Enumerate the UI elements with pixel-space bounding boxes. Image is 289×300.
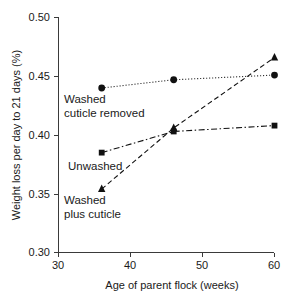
data-point <box>272 123 278 129</box>
annotation-washed-cuticle-removed-line2: cuticle removed <box>64 107 145 119</box>
data-point <box>271 72 278 79</box>
y-tick-label-040: 0.40 <box>29 129 50 141</box>
y-tick-label-035: 0.35 <box>29 188 50 200</box>
y-axis-title: Weight loss per day to 21 days (%) <box>10 50 22 220</box>
series-line-unwashed <box>102 126 275 153</box>
y-axis-ticks <box>54 18 59 253</box>
y-tick-label-050: 0.50 <box>29 11 50 23</box>
series-washed-plus-cuticle <box>98 53 278 192</box>
series-unwashed <box>99 123 278 156</box>
x-tick-label-50: 50 <box>196 259 208 271</box>
line-chart: 0.50 0.45 0.40 0.35 0.30 30 40 50 60 Age… <box>0 0 289 300</box>
x-axis-title: Age of parent flock (weeks) <box>105 279 238 291</box>
data-point <box>98 85 105 92</box>
series-markers-unwashed <box>99 123 278 156</box>
annotation-washed-plus-cuticle-line2: plus cuticle <box>64 208 121 220</box>
annotation-washed-cuticle-removed-line1: Washed <box>64 93 106 105</box>
data-point <box>170 124 177 131</box>
y-tick-label-030: 0.30 <box>29 246 50 258</box>
series-markers-washed-cuticle-removed <box>98 72 278 92</box>
x-tick-label-60: 60 <box>268 259 280 271</box>
data-point <box>99 150 105 156</box>
data-point <box>271 53 278 60</box>
x-tick-label-30: 30 <box>52 259 64 271</box>
y-tick-label-045: 0.45 <box>29 70 50 82</box>
x-axis-ticks <box>59 253 275 258</box>
data-point <box>170 76 177 83</box>
series-washed-cuticle-removed <box>98 72 278 92</box>
series-line-washed-cuticle-removed <box>102 75 275 88</box>
x-tick-label-40: 40 <box>124 259 136 271</box>
data-point <box>98 185 105 192</box>
annotation-unwashed-line1: Unwashed <box>68 160 122 172</box>
annotation-washed-plus-cuticle-line1: Washed <box>64 194 106 206</box>
chart-figure: 0.50 0.45 0.40 0.35 0.30 30 40 50 60 Age… <box>0 0 289 300</box>
series-line-washed-plus-cuticle <box>102 57 275 189</box>
